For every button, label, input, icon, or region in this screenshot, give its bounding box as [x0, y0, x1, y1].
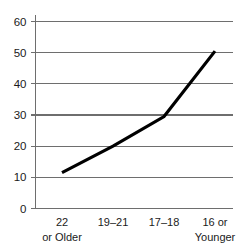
x-tick-label: or Older	[42, 231, 82, 243]
y-tick-label: 0	[20, 203, 26, 215]
chart-background	[0, 0, 248, 251]
x-tick-label: 19–21	[98, 216, 129, 228]
y-tick-label: 60	[14, 16, 27, 28]
y-tick-label: 30	[14, 109, 27, 121]
y-tick-label: 20	[14, 140, 27, 152]
x-tick-label: 22	[56, 216, 68, 228]
x-tick-label: 17–18	[149, 216, 180, 228]
line-chart: 0102030405060 22or Older19–2117–1816 orY…	[0, 0, 248, 251]
y-tick-label: 10	[14, 171, 27, 183]
x-tick-label: Younger	[195, 231, 236, 243]
y-tick-label: 50	[14, 47, 27, 59]
chart-canvas: 0102030405060 22or Older19–2117–1816 orY…	[0, 0, 248, 251]
y-tick-label: 40	[14, 78, 27, 90]
x-tick-label: 16 or	[202, 216, 227, 228]
